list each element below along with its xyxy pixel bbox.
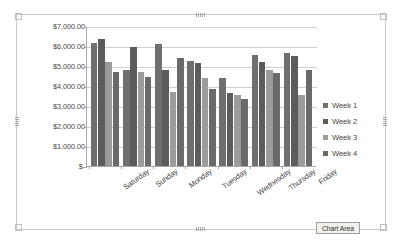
- legend-item[interactable]: Week 2: [323, 113, 381, 129]
- legend-label: Week 3: [332, 133, 357, 142]
- legend-swatch-icon: [323, 135, 328, 140]
- bar[interactable]: [202, 78, 209, 166]
- x-axis-category-label: Friday: [317, 167, 339, 186]
- bar[interactable]: [162, 70, 169, 166]
- bar[interactable]: [273, 73, 280, 166]
- selection-handle-top-right[interactable]: [380, 13, 387, 20]
- x-axis-category-label: Thursday: [286, 167, 316, 192]
- bar[interactable]: [187, 61, 194, 166]
- y-axis-tick-label: $3,000.00: [53, 103, 85, 111]
- bar[interactable]: [219, 78, 226, 166]
- y-axis-tick-label: $6,000.00: [53, 43, 85, 51]
- chart-object[interactable]: $7,000.00$6,000.00$5,000.00$4,000.00$3,0…: [16, 14, 386, 230]
- bar-group: [121, 27, 153, 166]
- bar-group: [282, 27, 314, 166]
- bar[interactable]: [195, 63, 202, 166]
- bar[interactable]: [113, 72, 120, 166]
- bar-series-container: [87, 27, 316, 166]
- bar[interactable]: [138, 72, 145, 166]
- bar-group: [218, 27, 250, 166]
- legend-item[interactable]: Week 3: [323, 129, 381, 145]
- bar[interactable]: [98, 39, 105, 166]
- selection-handle-bottom-right[interactable]: [380, 224, 387, 231]
- y-axis-tick-label: $7,000.00: [53, 23, 85, 31]
- y-axis-tick-label: $5,000.00: [53, 63, 85, 71]
- bar[interactable]: [298, 95, 305, 166]
- x-axis-category-label: Monday: [187, 167, 214, 190]
- bar[interactable]: [105, 62, 112, 166]
- y-axis-tick-label: $1,000.00: [53, 143, 85, 151]
- bar[interactable]: [234, 95, 241, 166]
- bar[interactable]: [209, 89, 216, 166]
- bar[interactable]: [177, 58, 184, 166]
- bar[interactable]: [91, 43, 98, 166]
- legend-label: Week 2: [332, 117, 357, 126]
- selection-handle-middle-left[interactable]: [15, 117, 19, 126]
- plot-area[interactable]: [86, 27, 316, 167]
- bar-group: [185, 27, 217, 166]
- bar-group: [153, 27, 185, 166]
- x-axis-category-label: Wednesday: [255, 167, 292, 197]
- y-axis[interactable]: $7,000.00$6,000.00$5,000.00$4,000.00$3,0…: [21, 27, 85, 167]
- bar[interactable]: [155, 44, 162, 166]
- y-axis-tick-label: $4,000.00: [53, 83, 85, 91]
- bar[interactable]: [259, 62, 266, 166]
- legend-item[interactable]: Week 1: [323, 97, 381, 113]
- selection-handle-bottom-left[interactable]: [15, 224, 22, 231]
- bar[interactable]: [170, 92, 177, 166]
- bar[interactable]: [291, 56, 298, 166]
- legend-label: Week 1: [332, 101, 357, 110]
- bar[interactable]: [284, 53, 291, 166]
- x-axis-category-label: Saturday: [122, 167, 151, 192]
- chart-area-tooltip: Chart Area: [316, 222, 360, 234]
- selection-handle-top-center[interactable]: [196, 13, 205, 17]
- bar[interactable]: [252, 55, 259, 166]
- bar[interactable]: [130, 47, 137, 166]
- selection-handle-top-left[interactable]: [15, 13, 22, 20]
- legend-item[interactable]: Week 4: [323, 145, 381, 161]
- bar-group: [250, 27, 282, 166]
- legend-swatch-icon: [323, 103, 328, 108]
- bar[interactable]: [227, 93, 234, 166]
- legend-label: Week 4: [332, 149, 357, 158]
- selection-handle-bottom-center[interactable]: [196, 227, 205, 231]
- bar[interactable]: [145, 77, 152, 166]
- x-axis[interactable]: SaturdaySundayMondayTuesdayWednesdayThur…: [86, 167, 316, 219]
- bar-group: [89, 27, 121, 166]
- x-axis-category-label: Sunday: [154, 167, 180, 189]
- legend-swatch-icon: [323, 151, 328, 156]
- bar[interactable]: [241, 99, 248, 166]
- chart-legend[interactable]: Week 1Week 2Week 3Week 4: [323, 97, 381, 161]
- bar[interactable]: [306, 70, 313, 166]
- x-axis-category-label: Tuesday: [220, 167, 248, 191]
- selection-handle-middle-right[interactable]: [383, 117, 387, 126]
- y-axis-tick-label: $2,000.00: [53, 123, 85, 131]
- bar[interactable]: [123, 70, 130, 166]
- bar[interactable]: [266, 70, 273, 166]
- legend-swatch-icon: [323, 119, 328, 124]
